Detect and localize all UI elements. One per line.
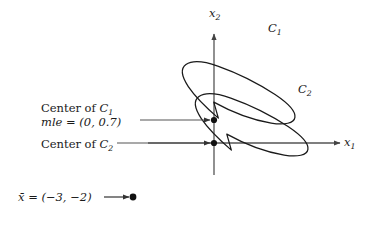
ellipse-c1 (180, 39, 296, 148)
curve-label-c2: C2 (298, 82, 312, 99)
mle-point (211, 117, 217, 123)
annotation-center-c1-symbol: C (99, 101, 108, 115)
x1-axis-label: x1 (344, 135, 355, 152)
annotation-xbar: x̄ = (−3, −2) (18, 190, 92, 204)
annotation-center-c1-prefix: Center of (41, 101, 99, 115)
annotation-center-c2-prefix: Center of (41, 137, 99, 151)
annotation-center-c2-subscript: 2 (108, 144, 113, 153)
annotation-mle: mle = (0, 0.7) (41, 115, 121, 129)
ellipse-c2 (193, 71, 309, 180)
curve-label-c1-subscript: 1 (277, 28, 282, 37)
origin-point (211, 140, 217, 146)
annotation-center-c2-symbol: C (99, 137, 108, 151)
x2-axis-label: x2 (209, 6, 220, 23)
curve-label-c2-subscript: 2 (307, 89, 312, 98)
xbar-point (130, 194, 137, 201)
curve-label-c2-symbol: C (298, 82, 307, 96)
curve-label-c1: C1 (268, 21, 282, 38)
x2-axis-label-subscript: 2 (216, 13, 221, 22)
annotation-center-c2: Center of C2 (41, 137, 113, 154)
x1-axis-label-subscript: 1 (351, 142, 356, 151)
curve-label-c1-symbol: C (268, 21, 277, 35)
figure-container: Center of C1 mle = (0, 0.7) Center of C2… (0, 0, 372, 248)
